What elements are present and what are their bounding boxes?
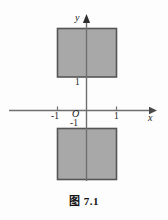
x-tick-label-one: 1 [114, 112, 119, 122]
y-axis-arrowhead [83, 14, 90, 23]
figure-caption: 图 7.1 [0, 192, 168, 208]
caption-label: 图 [69, 195, 81, 207]
y-axis-label: y [75, 13, 79, 23]
y-tick-label-negative-one: -1 [70, 119, 78, 129]
figure-container: y x O 1 -1 -1 1 图 7.1 [0, 0, 168, 220]
coordinate-plot [0, 0, 168, 220]
y-tick-label-one: 1 [75, 78, 80, 88]
x-tick-label-negative-one: -1 [51, 112, 59, 122]
x-axis-label: x [148, 113, 152, 123]
caption-number: 7.1 [84, 195, 99, 207]
